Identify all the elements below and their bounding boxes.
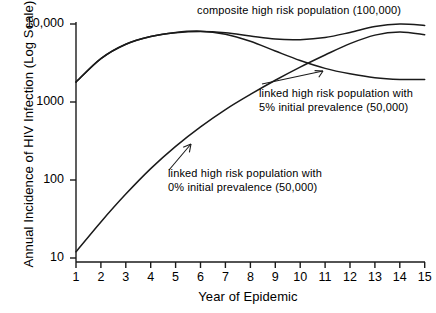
x-tick-label-6: 6 (189, 270, 213, 284)
x-tick-label-15: 15 (413, 270, 436, 284)
x-tick-label-3: 3 (114, 270, 138, 284)
x-tick-label-12: 12 (338, 270, 362, 284)
series-line-linked-5pct (76, 31, 425, 82)
annotation-arrow-linked-5pct (262, 71, 323, 84)
series-line-composite (76, 24, 425, 82)
x-tick-label-1: 1 (64, 270, 88, 284)
y-tick-label-10000: 10,000 (0, 16, 64, 30)
y-tick-label-100: 100 (0, 172, 64, 186)
y-tick-label-10: 10 (0, 250, 64, 264)
annotation-linked-5pct-line2: 5% initial prevalence (50,000) (259, 100, 408, 114)
x-tick-label-13: 13 (363, 270, 387, 284)
x-tick-label-8: 8 (238, 270, 262, 284)
x-tick-label-4: 4 (139, 270, 163, 284)
x-tick-label-5: 5 (164, 270, 188, 284)
x-tick-label-11: 11 (313, 270, 337, 284)
y-axis-title: Annual Incidence of HIV Infection (Log S… (21, 8, 36, 268)
x-tick-label-2: 2 (89, 270, 113, 284)
x-tick-label-10: 10 (288, 270, 312, 284)
chart-plot-area (0, 0, 436, 313)
series-line-linked-0pct (76, 32, 425, 252)
x-axis-title: Year of Epidemic (70, 289, 426, 304)
x-tick-label-14: 14 (388, 270, 412, 284)
x-tick-label-9: 9 (263, 270, 287, 284)
annotation-composite-label: composite high risk population (100,000) (197, 3, 401, 17)
annotation-linked-5pct-line1: linked high risk population with (259, 86, 413, 100)
annotation-linked-0pct-line2: 0% initial prevalence (50,000) (168, 180, 317, 194)
y-tick-label-1000: 1000 (0, 94, 64, 108)
x-tick-label-7: 7 (213, 270, 237, 284)
chart-figure: Annual Incidence of HIV Infection (Log S… (0, 0, 436, 313)
y-tick-marks (70, 24, 76, 258)
annotation-linked-0pct-line1: linked high risk population with (168, 166, 322, 180)
x-tick-marks (76, 262, 425, 268)
